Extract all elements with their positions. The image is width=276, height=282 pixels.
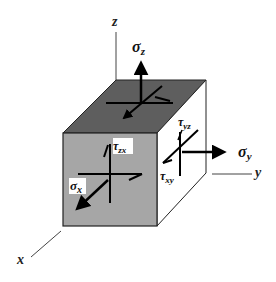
z-axis-label: z — [111, 14, 118, 29]
stress-cube-diagram: z y x σz τzx σx τyz τxy σy — [0, 0, 276, 282]
sigma-y-label: σy — [238, 143, 252, 162]
x-axis-label: x — [16, 252, 24, 267]
x-axis-line — [31, 231, 61, 257]
sigma-z-label: σz — [132, 38, 146, 57]
y-axis-label: y — [253, 165, 262, 180]
